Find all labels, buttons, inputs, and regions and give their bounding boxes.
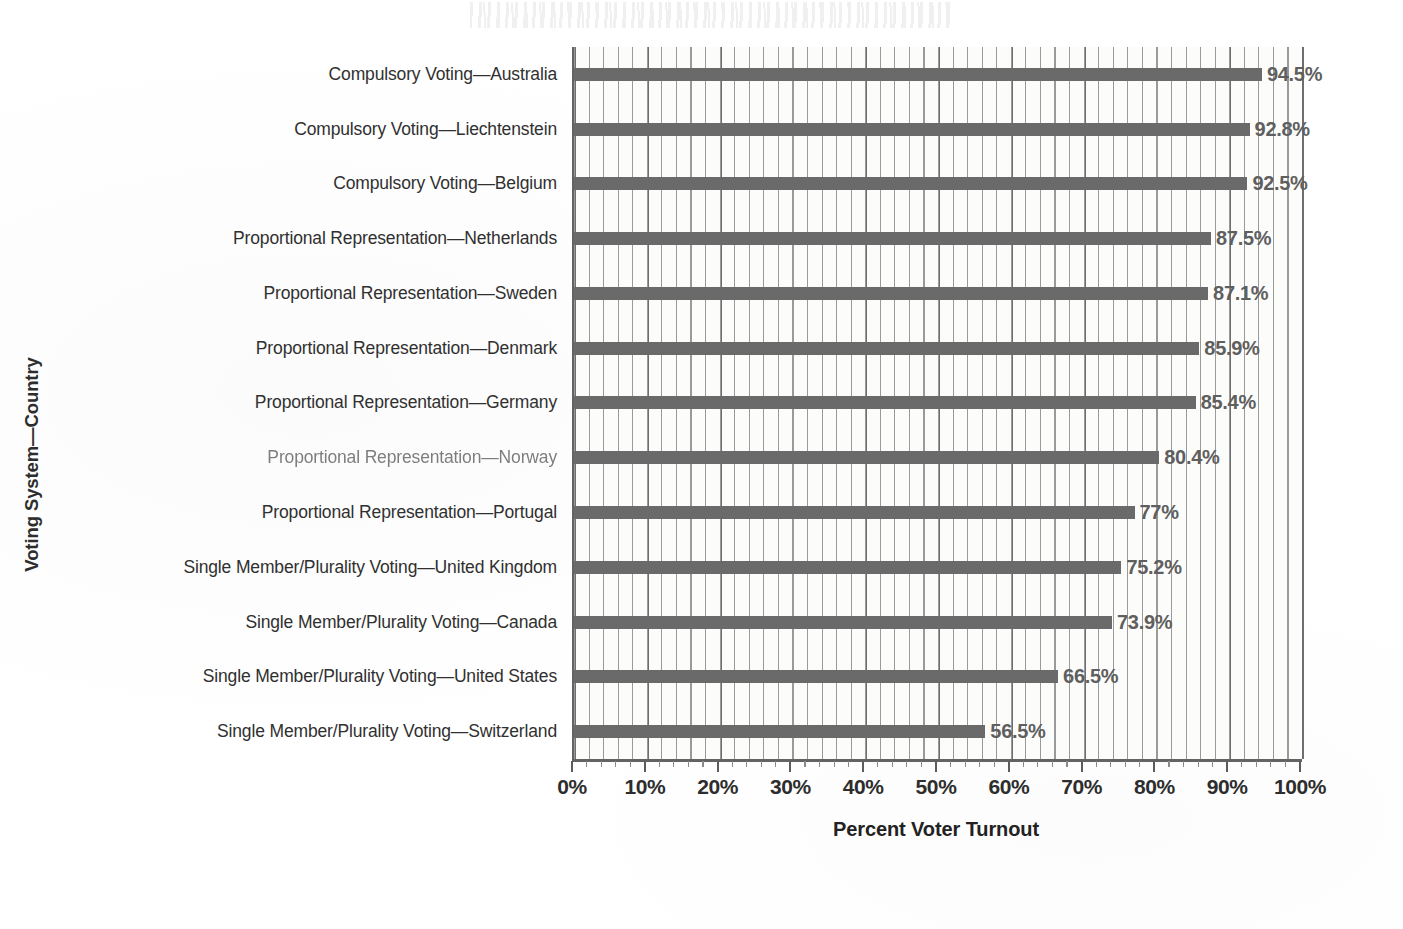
bar-value-label: 94.5% [1262,63,1322,86]
x-tick-label: 10% [624,775,665,799]
bar-row[interactable]: 73.9% [574,595,1302,650]
x-tick-label: 20% [697,775,738,799]
category-label: Single Member/Plurality Voting—United St… [203,666,565,687]
x-tick-major [571,761,573,772]
x-tick-minor [1256,761,1257,767]
x-tick-minor [819,761,820,767]
category-label-row: Single Member/Plurality Voting—Canada [120,595,565,650]
bar[interactable] [574,123,1250,136]
x-tick-major [862,761,864,772]
category-label-row: Proportional Representation—Sweden [120,266,565,321]
bar[interactable] [574,616,1112,629]
bar[interactable] [574,396,1196,409]
y-axis-title: Voting System—Country [14,0,50,929]
category-label-row: Compulsory Voting—Australia [120,47,565,102]
bar-row[interactable]: 85.4% [574,376,1302,431]
category-label: Proportional Representation—Denmark [256,338,565,359]
bar-value-label: 73.9% [1112,611,1172,634]
bar-row[interactable]: 77% [574,485,1302,540]
x-tick-minor [892,761,893,767]
bar[interactable] [574,725,985,738]
bar-row[interactable]: 94.5% [574,47,1302,102]
bar-value-label: 80.4% [1159,446,1219,469]
category-label-row: Single Member/Plurality Voting—Switzerla… [120,704,565,759]
bar[interactable] [574,68,1262,81]
x-tick-minor [732,761,733,767]
bar-value-label: 85.9% [1199,337,1259,360]
x-tick-minor [630,761,631,767]
x-tick-major [1081,761,1083,772]
bar[interactable] [574,232,1211,245]
x-tick-minor [950,761,951,767]
x-tick-minor [1198,761,1199,767]
x-tick-minor [1037,761,1038,767]
bar[interactable] [574,451,1159,464]
category-label-row: Single Member/Plurality Voting—United St… [120,649,565,704]
category-label-row: Compulsory Voting—Liechtenstein [120,102,565,157]
x-tick-major [1153,761,1155,772]
bar-row[interactable]: 85.9% [574,321,1302,376]
bar-row[interactable]: 92.5% [574,157,1302,212]
plot-area: 94.5%92.8%92.5%87.5%87.1%85.9%85.4%80.4%… [572,47,1302,759]
bar[interactable] [574,342,1199,355]
x-tick-label: 60% [988,775,1029,799]
plot-right-boundary [1302,47,1304,759]
x-tick-minor [1139,761,1140,767]
category-label-row: Proportional Representation—Norway [120,430,565,485]
bar-series: 94.5%92.8%92.5%87.5%87.1%85.9%85.4%80.4%… [574,47,1302,759]
bar-value-label: 92.8% [1250,118,1310,141]
x-tick-minor [921,761,922,767]
bar[interactable] [574,177,1247,190]
bar-row[interactable]: 75.2% [574,540,1302,595]
bar-row[interactable]: 87.5% [574,211,1302,266]
x-tick-minor [761,761,762,767]
x-axis-ticks [572,761,1300,771]
x-tick-minor [979,761,980,767]
x-tick-minor [965,761,966,767]
bar[interactable] [574,561,1121,574]
x-tick-minor [1066,761,1067,767]
x-tick-minor [1023,761,1024,767]
category-label-row: Proportional Representation—Netherlands [120,211,565,266]
category-label-row: Proportional Representation—Denmark [120,321,565,376]
x-tick-major [644,761,646,772]
y-axis-category-labels: Compulsory Voting—AustraliaCompulsory Vo… [120,47,565,759]
x-tick-minor [688,761,689,767]
x-tick-minor [1285,761,1286,767]
x-tick-minor [1183,761,1184,767]
x-tick-major [1226,761,1228,772]
bar-row[interactable]: 66.5% [574,649,1302,704]
x-tick-minor [673,761,674,767]
category-label: Proportional Representation—Germany [255,392,565,413]
bar-value-label: 87.5% [1211,227,1271,250]
x-tick-minor [615,761,616,767]
x-tick-label: 30% [770,775,811,799]
bar-row[interactable]: 80.4% [574,430,1302,485]
category-label: Compulsory Voting—Liechtenstein [294,119,565,140]
category-label-row: Single Member/Plurality Voting—United Ki… [120,540,565,595]
category-label: Compulsory Voting—Belgium [333,173,565,194]
x-tick-minor [1096,761,1097,767]
x-tick-minor [1168,761,1169,767]
bar[interactable] [574,670,1058,683]
category-label-row: Compulsory Voting—Belgium [120,157,565,212]
voter-turnout-bar-chart: Voting System—Country Compulsory Voting—… [0,0,1403,929]
x-axis-title: Percent Voter Turnout [572,818,1300,841]
category-label-row: Proportional Representation—Portugal [120,485,565,540]
x-tick-minor [1241,761,1242,767]
x-tick-minor [586,761,587,767]
bar-row[interactable]: 87.1% [574,266,1302,321]
category-label: Single Member/Plurality Voting—Canada [245,612,565,633]
bar[interactable] [574,506,1135,519]
bar-row[interactable]: 56.5% [574,704,1302,759]
x-tick-minor [746,761,747,767]
x-tick-label: 50% [916,775,957,799]
bar-value-label: 77% [1135,501,1179,524]
bar-row[interactable]: 92.8% [574,102,1302,157]
x-tick-major [1008,761,1010,772]
x-tick-label: 0% [557,775,587,799]
x-axis-tick-labels: 0%10%20%30%40%50%60%70%80%90%100% [572,775,1300,805]
x-tick-major [717,761,719,772]
x-tick-major [935,761,937,772]
bar[interactable] [574,287,1208,300]
